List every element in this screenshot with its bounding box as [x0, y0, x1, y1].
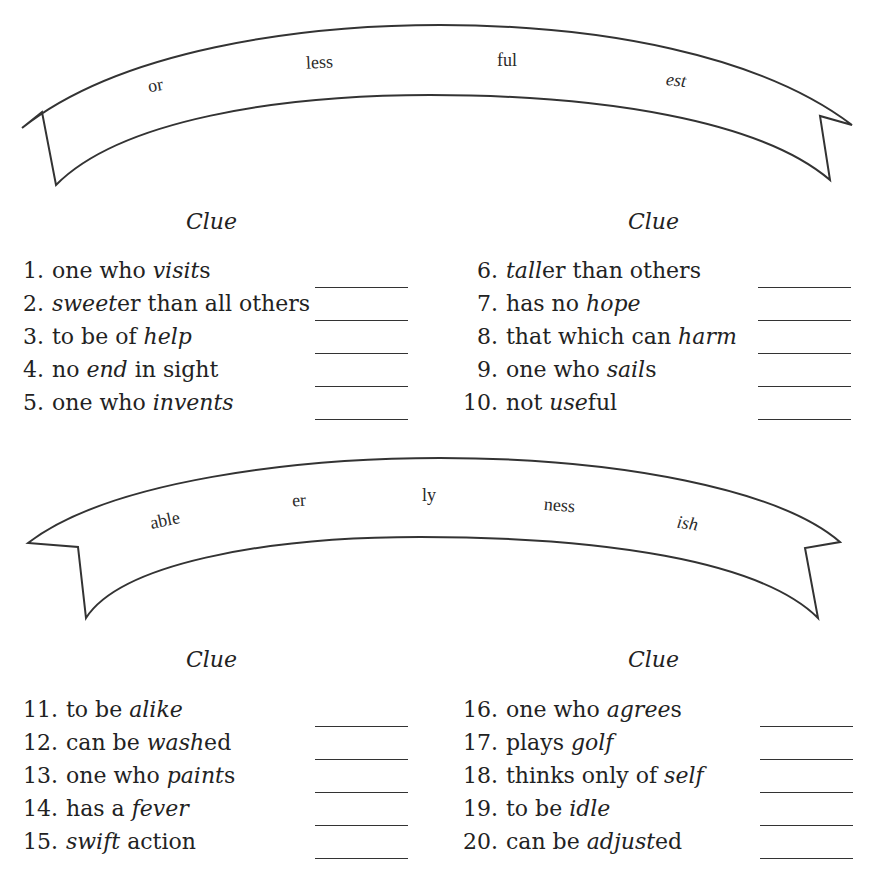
root-word: alike: [129, 697, 183, 722]
clue-number: 1.: [18, 257, 44, 285]
clue-text: not useful: [506, 390, 617, 415]
clue-text-part: can be: [66, 730, 147, 755]
clue-text-part: er than others: [542, 258, 701, 283]
clue-text-part: one who: [52, 258, 153, 283]
clue-text: to be alike: [66, 697, 183, 722]
clue-text-part: s: [199, 258, 210, 283]
clue-text-part: has no: [506, 291, 586, 316]
clue-text-part: one who: [66, 763, 167, 788]
answer-blank[interactable]: [758, 419, 851, 420]
clue-text-part: action: [120, 829, 196, 854]
answer-blank[interactable]: [315, 419, 408, 420]
clue-text-part: has a: [66, 796, 132, 821]
answer-blank[interactable]: [315, 320, 408, 321]
root-word: paint: [167, 763, 224, 788]
clue-text: plays golf: [506, 730, 613, 755]
root-word: swift: [66, 829, 120, 854]
clue-number: 6.: [458, 257, 498, 285]
suffix-est: est: [665, 69, 687, 92]
clue-item: 10.not useful: [458, 389, 737, 422]
answer-blank[interactable]: [760, 759, 853, 760]
clue-text: one who paints: [66, 763, 235, 788]
clue-text-part: in sight: [128, 357, 219, 382]
suffix-banner-2: able er ly ness ish: [0, 440, 869, 640]
clue-text-part: no: [52, 357, 86, 382]
clue-text-part: plays: [506, 730, 571, 755]
answer-blank[interactable]: [315, 726, 408, 727]
clue-text: one who agrees: [506, 697, 682, 722]
root-word: use: [549, 390, 587, 415]
answer-blank[interactable]: [760, 858, 853, 859]
clue-item: 11.to be alike: [18, 696, 235, 729]
clue-item: 12.can be washed: [18, 729, 235, 762]
clue-item: 3.to be of help: [18, 323, 310, 356]
clue-number: 5.: [18, 389, 44, 417]
clue-number: 18.: [458, 762, 498, 790]
clue-text-part: s: [645, 357, 656, 382]
clue-text: that which can harm: [506, 324, 737, 349]
clue-number: 9.: [458, 356, 498, 384]
suffix-ful: ful: [497, 50, 517, 71]
answer-blank[interactable]: [760, 825, 853, 826]
answer-blank[interactable]: [315, 386, 408, 387]
clue-item: 20.can be adjusted: [458, 828, 704, 861]
clue-item: 16.one who agrees: [458, 696, 704, 729]
clue-number: 11.: [18, 696, 58, 724]
clue-number: 3.: [18, 323, 44, 351]
answer-blank[interactable]: [760, 726, 853, 727]
answer-blank[interactable]: [315, 353, 408, 354]
answer-blank[interactable]: [315, 792, 408, 793]
clue-text: sweeter than all others: [52, 291, 310, 316]
clue-text-part: s: [670, 697, 681, 722]
clue-header: Clue: [186, 647, 237, 672]
clue-text: one who invents: [52, 390, 234, 415]
clue-text-part: er than all others: [117, 291, 310, 316]
clue-item: 6.taller than others: [458, 257, 737, 290]
clue-text-part: not: [506, 390, 549, 415]
answer-blank[interactable]: [315, 858, 408, 859]
root-word: self: [664, 763, 704, 788]
clue-text: one who sails: [506, 357, 656, 382]
clue-item: 7.has no hope: [458, 290, 737, 323]
clue-item: 17.plays golf: [458, 729, 704, 762]
clue-text-part: s: [224, 763, 235, 788]
clue-item: 18.thinks only of self: [458, 762, 704, 795]
answer-blank[interactable]: [758, 287, 851, 288]
clue-number: 16.: [458, 696, 498, 724]
clue-text-part: to be: [506, 796, 569, 821]
clue-list-1-5: 1.one who visits2.sweeter than all other…: [18, 257, 310, 422]
clue-number: 20.: [458, 828, 498, 856]
answer-blank[interactable]: [315, 287, 408, 288]
clue-number: 13.: [18, 762, 58, 790]
clue-list-6-10: 6.taller than others7.has no hope8.that …: [458, 257, 737, 422]
clue-text: one who visits: [52, 258, 211, 283]
root-word: agree: [607, 697, 671, 722]
answer-blank[interactable]: [758, 386, 851, 387]
clue-number: 17.: [458, 729, 498, 757]
clue-text-part: thinks only of: [506, 763, 664, 788]
ribbon-banner-icon: [0, 0, 869, 200]
ribbon-banner-icon: [0, 440, 869, 640]
suffix-ness: ness: [543, 494, 576, 518]
clue-number: 4.: [18, 356, 44, 384]
answer-blank[interactable]: [760, 792, 853, 793]
clue-text: no end in sight: [52, 357, 218, 382]
root-word: visit: [153, 258, 200, 283]
root-word: adjust: [587, 829, 655, 854]
clue-number: 10.: [458, 389, 498, 417]
clue-item: 4.no end in sight: [18, 356, 310, 389]
answer-blank[interactable]: [315, 759, 408, 760]
clue-number: 7.: [458, 290, 498, 318]
root-word: hope: [586, 291, 641, 316]
clue-text: to be of help: [52, 324, 192, 349]
suffix-ly: ly: [422, 485, 436, 506]
clue-text-part: ful: [588, 390, 617, 415]
root-word: tall: [506, 258, 542, 283]
suffix-er: er: [291, 490, 306, 512]
answer-blank[interactable]: [758, 353, 851, 354]
root-word: wash: [147, 730, 204, 755]
answer-blank[interactable]: [758, 320, 851, 321]
root-word: idle: [569, 796, 610, 821]
root-word: sail: [607, 357, 645, 382]
answer-blank[interactable]: [315, 825, 408, 826]
